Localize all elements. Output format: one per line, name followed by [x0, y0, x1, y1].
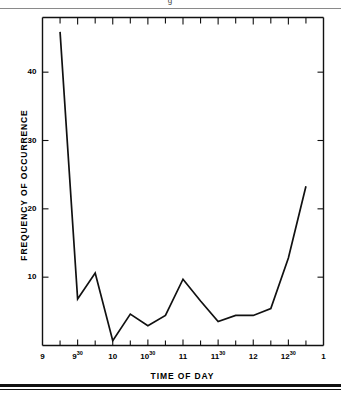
y-tick-label: 40: [11, 67, 37, 76]
x-tick-label: 10: [99, 352, 127, 361]
x-tick-label: 9: [29, 352, 57, 361]
x-tick-label: 11: [169, 352, 197, 361]
bottom-divider-rule-thick: [0, 384, 341, 387]
data-series-line: [60, 32, 306, 341]
y-tick-label: 20: [11, 204, 37, 213]
x-tick-label: 12: [239, 352, 267, 361]
y-tick-label: 10: [11, 272, 37, 281]
y-axis-title: FREQUENCY OF OCCURRENCE: [19, 85, 29, 285]
y-tick-label: 30: [11, 136, 37, 145]
x-tick-label: 930: [64, 352, 92, 361]
x-axis-title: TIME OF DAY: [42, 371, 323, 381]
axis-tick-marks: [43, 18, 324, 346]
figure-container: g FREQUENCY OF OCCURRENCE TIME OF DAY 10…: [0, 0, 341, 399]
plot-frame: [43, 18, 324, 346]
x-tick-label: 1230: [274, 352, 302, 361]
x-tick-label: 1: [310, 352, 338, 361]
x-tick-label: 1030: [134, 352, 162, 361]
line-chart-plot: [0, 0, 341, 399]
x-tick-label: 1130: [204, 352, 232, 361]
bottom-divider-rule-thin: [0, 389, 341, 390]
